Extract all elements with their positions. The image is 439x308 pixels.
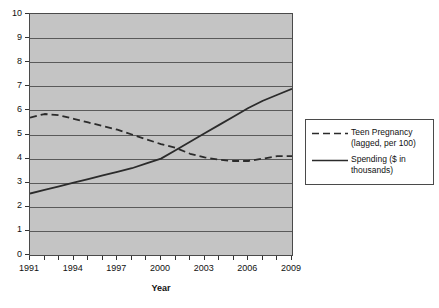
y-tick-label: 3	[17, 177, 22, 186]
x-tick-label: 2006	[237, 264, 257, 273]
y-tick-label: 5	[17, 129, 22, 138]
series-lines	[30, 14, 292, 255]
x-axis-title: Year	[29, 283, 293, 293]
x-tick-mark	[44, 256, 45, 260]
legend-label-teen-pregnancy: Teen Pregnancy (lagged, per 100)	[351, 127, 416, 149]
x-tick-mark	[160, 256, 161, 260]
y-tick-label: 10	[12, 9, 22, 18]
x-tick-mark	[247, 256, 248, 260]
x-tick-mark	[233, 256, 234, 260]
x-tick-mark	[29, 256, 30, 260]
x-tick-mark	[262, 256, 263, 260]
x-tick-label: 1994	[63, 264, 83, 273]
x-axis: 1991199419972000200320062009	[0, 258, 439, 278]
line-chart: 012345678910 199119941997200020032006200…	[0, 0, 439, 308]
y-axis: 012345678910	[0, 0, 29, 256]
plot-area	[29, 13, 293, 256]
y-tick-label: 2	[17, 201, 22, 210]
dashed-line-icon	[311, 128, 349, 139]
legend-label-spending: Spending ($ in thousands)	[351, 154, 406, 176]
x-tick-mark	[189, 256, 190, 260]
legend-item-teen-pregnancy: Teen Pregnancy (lagged, per 100)	[311, 127, 416, 149]
y-tick-label: 6	[17, 105, 22, 114]
x-tick-mark	[116, 256, 117, 260]
y-tick-label: 8	[17, 57, 22, 66]
x-tick-mark	[145, 256, 146, 260]
x-tick-label: 1997	[106, 264, 126, 273]
y-tick-label: 7	[17, 81, 22, 90]
legend-item-spending: Spending ($ in thousands)	[311, 154, 406, 176]
y-tick-label: 1	[17, 225, 22, 234]
x-tick-mark	[291, 256, 292, 260]
x-tick-mark	[175, 256, 176, 260]
x-tick-label: 1991	[19, 264, 39, 273]
x-tick-label: 2000	[150, 264, 170, 273]
x-tick-mark	[102, 256, 103, 260]
legend: Teen Pregnancy (lagged, per 100) Spendin…	[305, 119, 434, 185]
x-tick-mark	[131, 256, 132, 260]
x-tick-mark	[218, 256, 219, 260]
x-tick-label: 2003	[194, 264, 214, 273]
solid-line-icon	[311, 155, 349, 166]
y-tick-label: 4	[17, 153, 22, 162]
x-tick-mark	[204, 256, 205, 260]
y-tick-label: 9	[17, 33, 22, 42]
x-tick-mark	[73, 256, 74, 260]
x-tick-mark	[58, 256, 59, 260]
x-tick-mark	[87, 256, 88, 260]
x-tick-label: 2009	[281, 264, 301, 273]
x-tick-mark	[276, 256, 277, 260]
